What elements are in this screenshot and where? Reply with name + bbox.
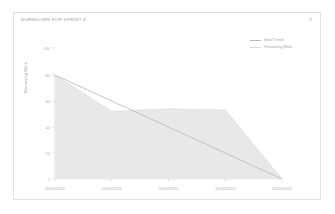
x-tick-label: 2016/10/24 <box>272 186 293 191</box>
burndown-chart: 100 80 60 40 20 0 <box>14 29 322 201</box>
plot-area: Remaining Work 100 80 60 40 20 0 <box>14 29 322 201</box>
x-axis-ticks <box>55 179 282 182</box>
y-tick-label: 40 <box>46 125 51 130</box>
y-tick-label: 100 <box>43 46 50 51</box>
page-title: BURNDOWN FOR SPRINT 8 <box>21 17 86 22</box>
y-axis-ticks <box>52 48 55 179</box>
x-tick-label: 2016/10/21 <box>102 186 123 191</box>
y-tick-label: 60 <box>46 99 51 104</box>
y-tick-label: 80 <box>46 73 51 78</box>
close-icon[interactable]: × <box>307 16 314 23</box>
burndown-card: BURNDOWN FOR SPRINT 8 × Ideal Trend Rema… <box>13 12 321 200</box>
x-tick-label: 2016/10/22 <box>158 186 179 191</box>
x-tick-label: 2016/10/20 <box>45 186 66 191</box>
x-axis-tick-labels: 2016/10/20 2016/10/21 2016/10/22 2016/10… <box>45 186 293 191</box>
card-header: BURNDOWN FOR SPRINT 8 × <box>14 13 320 29</box>
y-tick-label: 0 <box>48 177 51 182</box>
y-axis-tick-labels: 100 80 60 40 20 0 <box>43 46 50 182</box>
page-root: BURNDOWN FOR SPRINT 8 × Ideal Trend Rema… <box>0 0 335 214</box>
y-tick-label: 20 <box>46 151 51 156</box>
x-tick-label: 2016/10/23 <box>215 186 236 191</box>
